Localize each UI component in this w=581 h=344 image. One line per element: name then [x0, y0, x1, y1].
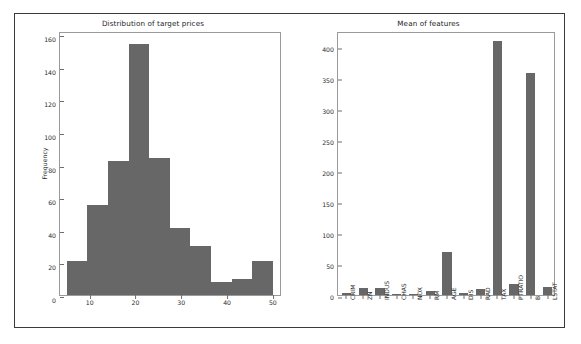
histogram-bar — [190, 246, 211, 295]
feature-x-tick-label: RM — [433, 291, 440, 300]
histogram-bar — [108, 161, 129, 295]
feature-x-tick-mark — [547, 295, 548, 299]
feature-x-tick-label: NOX — [416, 287, 423, 300]
histogram-plot-area: 0204060801001201401601020304050 — [60, 33, 280, 295]
histogram-axes: Frequency 020406080100120140160102030405… — [59, 32, 281, 296]
feature-x-tick-mark — [413, 295, 414, 299]
feature-means-y-tick: 350 — [322, 76, 338, 83]
feature-x-tick-label: LSTAT — [550, 282, 557, 300]
feature-means-y-tick: 150 — [322, 200, 338, 207]
feature-x-tick-mark — [379, 295, 380, 299]
histogram-bar — [129, 44, 150, 295]
feature-x-tick-label: AGE — [450, 288, 457, 300]
histogram-bar — [232, 279, 253, 295]
feature-means-panel: Mean of features CRIMZNINDUSCHASNOXRMAGE… — [291, 14, 566, 327]
feature-x-tick-mark — [447, 295, 448, 299]
feature-x-tick-mark — [430, 295, 431, 299]
feature-x-tick-mark — [497, 295, 498, 299]
histogram-title: Distribution of target prices — [15, 19, 291, 28]
histogram-bar — [170, 228, 191, 295]
histogram-bar — [149, 158, 170, 295]
feature-means-title: Mean of features — [291, 19, 566, 28]
feature-x-tick-label: INDUS — [383, 281, 390, 300]
feature-means-y-tick: 0 — [330, 294, 338, 301]
feature-means-y-tick: 300 — [322, 107, 338, 114]
feature-x-tick-mark — [396, 295, 397, 299]
feature-x-tick-label: ZN — [366, 291, 373, 300]
feature-x-tick-mark — [463, 295, 464, 299]
feature-x-tick-label: DIS — [466, 290, 473, 300]
feature-means-y-tick: 50 — [326, 262, 338, 269]
feature-x-tick-mark — [363, 295, 364, 299]
feature-x-tick-label: CHAS — [399, 283, 406, 300]
feature-x-tick-label: TAX — [500, 289, 507, 300]
feature-x-tick-label: RAD — [483, 287, 490, 300]
feature-x-tick-mark — [480, 295, 481, 299]
feature-means-axes: CRIMZNINDUSCHASNOXRMAGEDISRADTAXPTRATIOB… — [337, 32, 555, 296]
feature-x-tick-label: B — [533, 296, 540, 300]
feature-means-y-tick: 250 — [322, 138, 338, 145]
feature-means-y-tick: 100 — [322, 231, 338, 238]
feature-x-tick-mark — [514, 295, 515, 299]
histogram-x-tick: 50 — [269, 295, 277, 306]
histogram-bar — [211, 282, 232, 295]
histogram-bar — [67, 261, 88, 295]
histogram-x-tick: 20 — [132, 295, 140, 306]
histogram-bar — [252, 261, 273, 295]
feature-means-y-tick: 200 — [322, 169, 338, 176]
feature-x-tick-label: CRIM — [349, 285, 356, 300]
feature-mean-bar — [493, 41, 502, 295]
figure-frame: Distribution of target prices Frequency … — [14, 13, 565, 328]
histogram-panel: Distribution of target prices Frequency … — [15, 14, 291, 327]
histogram-x-tick: 10 — [86, 295, 94, 306]
feature-x-tick-mark — [530, 295, 531, 299]
feature-x-tick-mark — [346, 295, 347, 299]
histogram-x-tick: 40 — [223, 295, 231, 306]
feature-means-y-tick: 400 — [322, 45, 338, 52]
histogram-y-axis-label: Frequency — [41, 134, 48, 194]
feature-mean-bar — [526, 73, 535, 295]
histogram-x-tick: 30 — [177, 295, 185, 306]
feature-x-tick-label: PTRATIO — [517, 275, 524, 300]
feature-means-plot-area: CRIMZNINDUSCHASNOXRMAGEDISRADTAXPTRATIOB… — [338, 33, 554, 295]
histogram-bar — [87, 205, 108, 295]
